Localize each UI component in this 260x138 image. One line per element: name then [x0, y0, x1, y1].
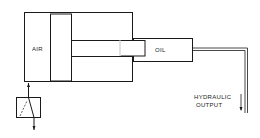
air-label: AIR [32, 46, 43, 52]
control-valve [17, 98, 41, 118]
output-label: OUTPUT [196, 102, 222, 108]
arrow-down-icon [33, 126, 36, 130]
plunger [120, 41, 145, 57]
hydraulic-label: HYDRAULIC [194, 94, 232, 100]
intensifier-diagram: AIR OIL HYDRAULIC OUTPUT [0, 0, 260, 138]
arrow-up-icon [27, 83, 30, 87]
arrow-down-icon [240, 107, 243, 111]
piston [51, 14, 72, 81]
oil-label: OIL [155, 47, 166, 53]
